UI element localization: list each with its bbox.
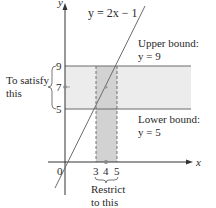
- bottom-brace-text-1: Restrict: [91, 183, 125, 195]
- y-axis-label: y: [58, 0, 63, 8]
- equation-label: y = 2x − 1: [88, 7, 138, 19]
- origin-label: 0: [57, 165, 63, 177]
- y-axis-arrow-icon: [63, 3, 68, 10]
- x-tick-3: 3: [93, 165, 99, 177]
- left-brace-text-2: this: [6, 87, 22, 99]
- y-tick-7: 7: [56, 81, 62, 93]
- left-brace: [48, 66, 56, 109]
- y-band: [65, 66, 191, 109]
- bottom-brace-text-2: to this: [91, 196, 118, 208]
- x-tick-4: 4: [103, 165, 109, 177]
- upper-bound-title: Upper bound:: [138, 37, 199, 49]
- left-brace-text-1: To satisfy: [6, 74, 49, 86]
- point-center: [104, 85, 107, 88]
- x-strip: [96, 66, 117, 162]
- x-axis-arrow-icon: [186, 160, 193, 165]
- lower-bound-title: Lower bound:: [138, 113, 200, 125]
- y-tick-9: 9: [56, 60, 62, 72]
- x-axis-label: x: [196, 156, 201, 168]
- y-tick-5: 5: [56, 103, 62, 115]
- x-tick-5: 5: [114, 165, 120, 177]
- point-x4: [104, 160, 108, 164]
- lower-bound-eq: y = 5: [138, 126, 161, 138]
- upper-bound-eq: y = 9: [138, 50, 161, 62]
